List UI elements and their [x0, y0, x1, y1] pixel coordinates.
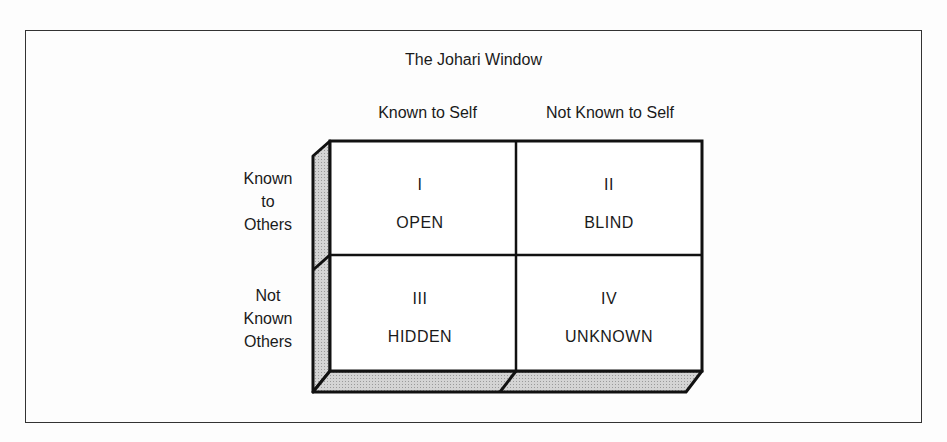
- quadrant-name: BLIND: [526, 214, 692, 232]
- quadrant-numeral: IV: [526, 290, 692, 308]
- quadrant-numeral: II: [526, 176, 692, 194]
- quadrant-open: I OPEN: [340, 176, 500, 232]
- quadrant-name: OPEN: [340, 214, 500, 232]
- quadrant-blind: II BLIND: [526, 176, 692, 232]
- quadrant-numeral: III: [340, 290, 500, 308]
- quadrant-name: UNKNOWN: [526, 328, 692, 346]
- quadrant-hidden: III HIDDEN: [340, 290, 500, 346]
- quadrant-unknown: IV UNKNOWN: [526, 290, 692, 346]
- quadrant-name: HIDDEN: [340, 328, 500, 346]
- quadrant-numeral: I: [340, 176, 500, 194]
